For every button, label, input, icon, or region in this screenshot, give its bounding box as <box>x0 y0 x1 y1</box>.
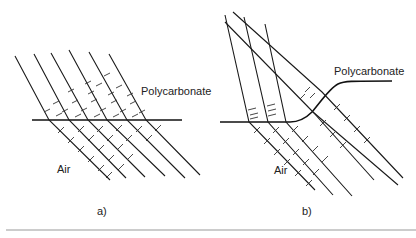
panel-b-rays <box>225 12 403 196</box>
ray <box>34 54 126 178</box>
refraction-diagram: Polycarbonate Air a) <box>0 0 416 238</box>
panel-b: Polycarbonate Air b) <box>220 12 404 217</box>
panel-b-polycarbonate-label: Polycarbonate <box>334 65 404 77</box>
panel-a-wavefronts-air <box>58 125 161 178</box>
panel-a-wavefronts-polycarbonate <box>44 73 145 117</box>
panel-a-rays <box>15 50 200 180</box>
panel-a-air-label: Air <box>57 163 71 175</box>
panel-b-interface-curve <box>220 81 392 122</box>
ray <box>109 54 200 175</box>
panel-a-polycarbonate-label: Polycarbonate <box>141 85 211 97</box>
panel-b-caption: b) <box>302 205 312 217</box>
panel-b-air-label: Air <box>274 164 288 176</box>
panel-a: Polycarbonate Air a) <box>15 50 211 217</box>
panel-a-caption: a) <box>97 205 107 217</box>
